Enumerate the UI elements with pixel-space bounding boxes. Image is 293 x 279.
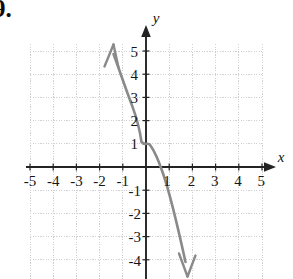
x-tick-label-4: 4 <box>234 173 242 189</box>
y-tick-label-1: 1 <box>131 136 139 152</box>
function-curve <box>114 54 186 262</box>
x-axis-label: x <box>277 149 285 165</box>
x-tick-label-neg4: -4 <box>47 173 60 189</box>
y-tick-label-neg4: -4 <box>129 253 142 269</box>
x-tick-label-3: 3 <box>211 173 219 189</box>
y-tick-label-2: 2 <box>131 113 139 129</box>
x-tick-label-1: 1 <box>163 173 171 189</box>
y-tick-label-3: 3 <box>131 90 139 106</box>
curve-lower-arrowhead <box>179 254 196 277</box>
x-tick-label-2: 2 <box>188 173 196 189</box>
y-axis-label: y <box>151 10 160 26</box>
y-axis-arrowhead <box>141 25 151 37</box>
y-tick-label-4: 4 <box>131 67 139 83</box>
graph-figure: 9. <box>0 0 293 279</box>
y-tick-label-neg3: -3 <box>129 229 142 245</box>
y-tick-label-neg1: -1 <box>129 183 142 199</box>
y-tick-label-neg2: -2 <box>129 206 142 222</box>
x-axis-arrowhead <box>264 162 276 172</box>
x-tick-label-neg5: -5 <box>24 173 37 189</box>
coordinate-plane: x y -5 -4 -3 -2 -1 1 2 3 4 5 5 4 3 2 1 -… <box>0 0 293 279</box>
y-tick-label-5: 5 <box>131 44 139 60</box>
x-tick-label-neg2: -2 <box>93 173 106 189</box>
x-tick-label-neg3: -3 <box>70 173 83 189</box>
axis-lines <box>26 32 269 279</box>
x-tick-label-neg1: -1 <box>117 173 130 189</box>
x-tick-label-5: 5 <box>257 173 265 189</box>
